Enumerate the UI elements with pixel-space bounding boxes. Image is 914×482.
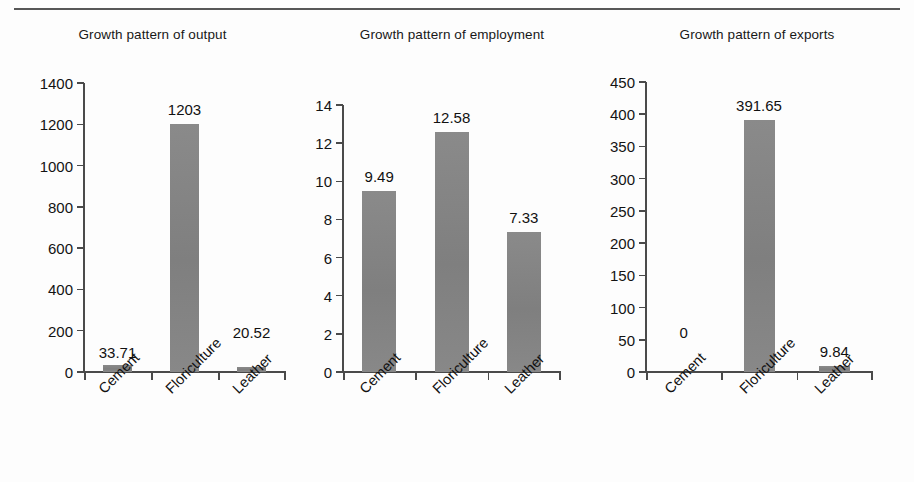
y-axis-tick-label: 350	[610, 139, 635, 154]
y-axis-line	[83, 83, 85, 372]
y-axis-tick-label: 800	[48, 199, 73, 214]
chart-panel-exports: Growth pattern of exports 05010015020025…	[600, 20, 914, 480]
x-axis-tick	[871, 372, 873, 380]
y-axis-tick-label: 10	[315, 174, 332, 189]
y-axis-tick-label: 450	[610, 75, 635, 90]
plot-area: 020040060080010001200140033.71Cement1203…	[84, 83, 285, 372]
y-axis-tick-label: 1400	[40, 76, 73, 91]
x-axis-category-label: Cement	[662, 350, 708, 396]
bar	[362, 191, 396, 372]
bar	[744, 120, 775, 372]
y-axis-tick-label: 200	[48, 323, 73, 338]
y-axis-tick	[336, 257, 343, 259]
y-axis-line	[645, 82, 647, 372]
chart-panel-employment: Growth pattern of employment 02468101214…	[302, 20, 602, 480]
y-axis-tick	[77, 289, 84, 291]
y-axis-tick	[639, 146, 646, 148]
y-axis-tick	[77, 124, 84, 126]
bar	[170, 124, 199, 372]
chart-row: Growth pattern of output 020040060080010…	[0, 20, 914, 480]
y-axis-tick-label: 400	[48, 282, 73, 297]
y-axis-tick	[639, 81, 646, 83]
y-axis-tick-label: 600	[48, 241, 73, 256]
x-axis-tick	[218, 372, 220, 380]
plot-area: 024681012149.49Cement12.58Floriculture7.…	[343, 105, 560, 372]
y-axis-tick-label: 250	[610, 203, 635, 218]
y-axis-tick	[336, 333, 343, 335]
figure-page: Growth pattern of output 020040060080010…	[0, 0, 914, 482]
bar-value-label: 1203	[168, 102, 201, 117]
y-axis-tick-label: 300	[610, 171, 635, 186]
y-axis-tick-label: 6	[324, 250, 332, 265]
y-axis-tick	[77, 82, 84, 84]
x-axis-tick	[721, 372, 723, 380]
x-axis-tick	[646, 372, 648, 380]
y-axis-tick-label: 50	[618, 332, 635, 347]
y-axis-tick-label: 400	[610, 107, 635, 122]
y-axis-tick-label: 1000	[40, 158, 73, 173]
x-axis-tick	[797, 372, 799, 380]
y-axis-tick	[77, 165, 84, 167]
y-axis-tick-label: 150	[610, 268, 635, 283]
y-axis-tick-label: 12	[315, 136, 332, 151]
y-axis-tick-label: 4	[324, 288, 332, 303]
x-axis-tick	[488, 372, 490, 380]
y-axis-tick	[639, 178, 646, 180]
chart-title: Growth pattern of employment	[302, 26, 602, 43]
bar-value-label: 0	[679, 325, 687, 340]
y-axis-tick	[77, 206, 84, 208]
x-axis-tick	[559, 372, 561, 380]
x-axis-tick	[343, 372, 345, 380]
y-axis-tick	[639, 371, 646, 373]
y-axis-line	[342, 105, 344, 372]
chart-panel-output: Growth pattern of output 020040060080010…	[0, 20, 305, 480]
y-axis-tick	[336, 219, 343, 221]
y-axis-tick-label: 14	[315, 98, 332, 113]
y-axis-tick	[639, 275, 646, 277]
bar-value-label: 12.58	[433, 110, 471, 125]
y-axis-tick-label: 8	[324, 212, 332, 227]
y-axis-tick	[639, 210, 646, 212]
y-axis-tick	[639, 339, 646, 341]
chart-title: Growth pattern of exports	[600, 26, 914, 43]
y-axis-tick-label: 2	[324, 326, 332, 341]
y-axis-tick	[639, 307, 646, 309]
x-axis-tick	[84, 372, 86, 380]
y-axis-tick-label: 0	[627, 365, 635, 380]
y-axis-tick-label: 0	[65, 365, 73, 380]
y-axis-tick	[77, 330, 84, 332]
y-axis-tick-label: 100	[610, 300, 635, 315]
y-axis-tick	[336, 181, 343, 183]
bar-value-label: 391.65	[736, 98, 782, 113]
bar	[435, 132, 469, 372]
y-axis-tick	[336, 104, 343, 106]
header-rule	[14, 8, 900, 10]
x-axis-tick	[284, 372, 286, 380]
bar-value-label: 9.49	[365, 169, 394, 184]
bar-value-label: 7.33	[509, 210, 538, 225]
bar-value-label: 20.52	[233, 325, 271, 340]
y-axis-tick	[336, 142, 343, 144]
y-axis-tick	[77, 247, 84, 249]
y-axis-tick	[336, 371, 343, 373]
x-axis-tick	[415, 372, 417, 380]
y-axis-tick	[639, 113, 646, 115]
y-axis-tick-label: 1200	[40, 117, 73, 132]
x-axis-category-label: Leather	[230, 351, 275, 396]
y-axis-tick-label: 200	[610, 236, 635, 251]
y-axis-tick	[639, 242, 646, 244]
y-axis-tick-label: 0	[324, 365, 332, 380]
chart-title: Growth pattern of output	[0, 26, 305, 43]
y-axis-tick	[336, 295, 343, 297]
plot-area: 0501001502002503003504004500Cement391.65…	[646, 82, 872, 372]
x-axis-tick	[151, 372, 153, 380]
y-axis-tick	[77, 371, 84, 373]
